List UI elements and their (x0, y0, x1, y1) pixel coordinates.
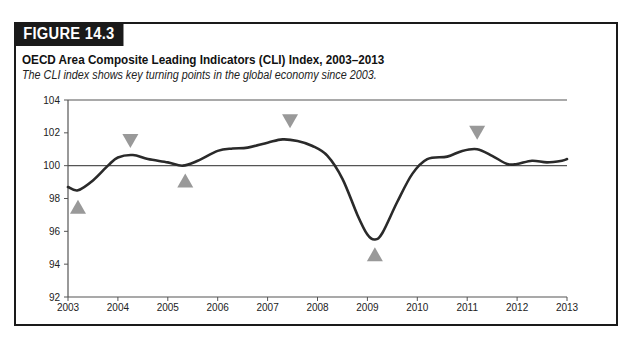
line-chart: 92949698100102104 2003200420052006200720… (0, 0, 626, 342)
trough-triangle-up-icon (177, 173, 193, 187)
x-axis-ticks: 2003200420052006200720082009201020112012… (57, 297, 579, 313)
trough-triangle-up-icon (367, 247, 383, 261)
y-axis-ticks: 92949698100102104 (43, 95, 68, 303)
x-tick-label: 2009 (356, 302, 379, 313)
y-tick-label: 104 (43, 95, 60, 106)
x-tick-label: 2013 (556, 302, 579, 313)
y-tick-label: 100 (43, 160, 60, 171)
y-tick-label: 92 (49, 292, 61, 303)
y-tick-label: 102 (43, 127, 60, 138)
x-tick-label: 2008 (306, 302, 329, 313)
y-tick-label: 96 (49, 226, 61, 237)
x-tick-label: 2012 (506, 302, 529, 313)
turning-point-markers (70, 114, 485, 261)
y-tick-label: 98 (49, 193, 61, 204)
axes (68, 100, 567, 297)
y-tick-label: 94 (49, 259, 61, 270)
peak-triangle-down-icon (469, 126, 485, 140)
x-tick-label: 2004 (107, 302, 130, 313)
trough-triangle-up-icon (70, 200, 86, 214)
x-tick-label: 2011 (456, 302, 478, 313)
peak-triangle-down-icon (282, 114, 298, 128)
cli-index-line (68, 139, 567, 239)
x-tick-label: 2006 (207, 302, 230, 313)
x-tick-label: 2005 (157, 302, 180, 313)
peak-triangle-down-icon (122, 134, 138, 148)
x-tick-label: 2010 (406, 302, 429, 313)
x-tick-label: 2007 (256, 302, 279, 313)
x-tick-label: 2003 (57, 302, 80, 313)
